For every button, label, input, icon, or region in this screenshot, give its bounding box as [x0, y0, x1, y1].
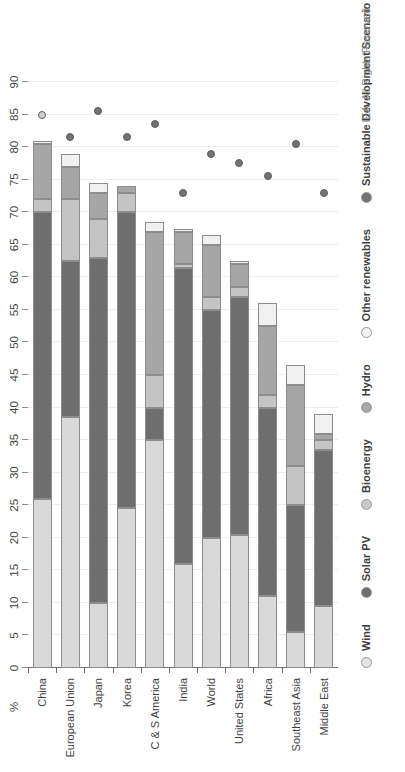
legend-item-solar_pv[interactable]: Solar PV — [360, 536, 372, 598]
value-axis-tick-label: 5 — [8, 632, 20, 638]
value-axis-tick-label: 0 — [8, 665, 20, 671]
scenario-marker — [235, 159, 243, 167]
bar-segment — [61, 199, 80, 261]
bar-segment — [145, 408, 164, 441]
legend-item-wind[interactable]: Wind — [360, 624, 372, 668]
value-axis-tick-label: 60 — [8, 271, 20, 284]
legend-label: Wind — [360, 624, 372, 651]
bar-segment — [89, 219, 108, 258]
plot-area — [28, 82, 338, 668]
value-axis-tick — [22, 472, 28, 473]
scenario-marker — [38, 111, 46, 119]
value-axis-tick — [22, 276, 28, 277]
bar-group — [314, 82, 333, 668]
scenario-marker — [66, 133, 74, 141]
bar-segment — [202, 538, 221, 668]
bar-segment — [145, 375, 164, 408]
value-axis-tick-label: 10 — [8, 596, 20, 609]
category-axis-tick — [141, 668, 142, 673]
category-label: European Union — [64, 678, 76, 772]
scenario-marker — [207, 150, 215, 158]
bar-segment — [89, 183, 108, 193]
category-axis-tick — [282, 668, 283, 673]
legend-label: Bioenergy — [360, 439, 372, 493]
bar-group — [89, 82, 108, 668]
value-axis-tick-label: 70 — [8, 206, 20, 219]
category-label: Korea — [121, 678, 133, 772]
bar-group — [33, 82, 52, 668]
bar-segment — [314, 440, 333, 450]
value-axis-tick — [22, 504, 28, 505]
legend-label: Hydro — [360, 364, 372, 396]
bar-segment — [33, 141, 52, 144]
bar-segment — [61, 167, 80, 200]
category-label: India — [177, 678, 189, 772]
value-axis-tick-label: 25 — [8, 499, 20, 512]
bar-segment — [174, 232, 193, 265]
value-axis-tick-label: 45 — [8, 369, 20, 382]
bar-segment — [145, 222, 164, 232]
value-axis-tick-label: 15 — [8, 564, 20, 577]
value-axis-tick-label: 85 — [8, 108, 20, 121]
bar-segment — [286, 632, 305, 668]
value-axis-tick — [22, 634, 28, 635]
legend-item-hydro[interactable]: Hydro — [360, 364, 372, 413]
bar-segment — [174, 264, 193, 267]
legend-item-bioenergy[interactable]: Bioenergy — [360, 439, 372, 510]
value-axis-tick-label: 50 — [8, 336, 20, 349]
category-label: Africa — [262, 678, 274, 772]
value-axis-tick — [22, 374, 28, 375]
category-label: Southeast Asia — [290, 678, 302, 772]
legend-item-other_renewables[interactable]: Other renewables — [360, 229, 372, 338]
bar-segment — [174, 564, 193, 668]
value-axis-tick — [22, 439, 28, 440]
bar-segment — [230, 297, 249, 535]
scenario-marker — [320, 189, 328, 197]
category-axis-tick — [28, 668, 29, 673]
bar-segment — [314, 606, 333, 668]
bar-segment — [61, 154, 80, 167]
category-axis-tick — [253, 668, 254, 673]
legend-swatch-icon — [361, 192, 372, 203]
value-axis-tick-label: 20 — [8, 531, 20, 544]
bar-segment — [258, 408, 277, 597]
bar-segment — [314, 414, 333, 434]
legend-swatch-icon — [361, 587, 372, 598]
bar-segment — [174, 268, 193, 564]
category-axis-tick — [225, 668, 226, 673]
unit-label: % — [8, 702, 20, 712]
bar-group — [230, 82, 249, 668]
category-axis-tick — [84, 668, 85, 673]
scenario-marker — [292, 140, 300, 148]
copyright-notice: IEA. All Rights Reserved — [360, 8, 372, 122]
bar-segment — [33, 199, 52, 212]
bar-segment — [117, 212, 136, 508]
chart-figure: 051015202530354045505560657075808590 % C… — [0, 0, 405, 772]
value-axis-tick — [22, 179, 28, 180]
scenario-marker — [94, 107, 102, 115]
value-axis-tick-label: 30 — [8, 466, 20, 479]
bar-segment — [145, 440, 164, 668]
bar-segment — [174, 229, 193, 232]
bar-group — [286, 82, 305, 668]
value-axis-tick — [22, 244, 28, 245]
value-axis-tick — [22, 81, 28, 82]
value-axis-tick — [22, 114, 28, 115]
value-axis-tick — [22, 569, 28, 570]
bar-group — [258, 82, 277, 668]
category-label: United States — [233, 678, 245, 772]
bar-segment — [33, 499, 52, 668]
bar-segment — [286, 505, 305, 632]
value-axis-tick — [22, 537, 28, 538]
bar-segment — [314, 434, 333, 441]
bar-segment — [314, 450, 333, 606]
value-axis-tick-label: 90 — [8, 76, 20, 89]
bar-segment — [61, 261, 80, 417]
bar-group — [174, 82, 193, 668]
value-axis-tick-label: 55 — [8, 303, 20, 316]
bar-segment — [258, 326, 277, 394]
category-axis-tick — [113, 668, 114, 673]
bar-segment — [286, 385, 305, 466]
bar-group — [202, 82, 221, 668]
bar-segment — [202, 297, 221, 310]
